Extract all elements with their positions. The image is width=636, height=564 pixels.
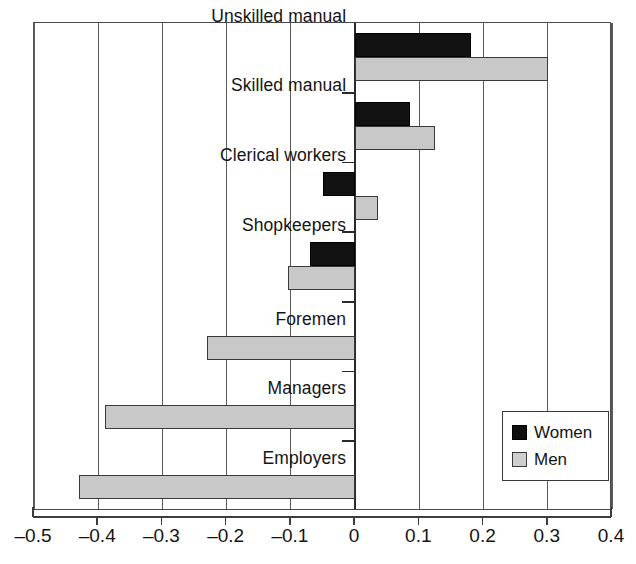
category-label-1: Skilled manual [231, 77, 346, 95]
x-tick-label-7: 0.2 [469, 526, 495, 545]
category-label-2: Clerical workers [220, 147, 346, 165]
x-tick-mark [225, 516, 227, 525]
x-tick-label-5: 0 [349, 526, 360, 545]
x-tick-mark [610, 507, 612, 517]
bar-men-3 [288, 266, 355, 290]
x-axis-line [33, 516, 611, 518]
category-label-6: Employers [263, 450, 347, 468]
bar-women-3 [310, 242, 355, 266]
legend-label-men: Men [534, 450, 567, 470]
x-tick-mark [289, 516, 291, 525]
gridline [98, 23, 99, 509]
gridline [33, 23, 34, 509]
bar-men-1 [355, 126, 435, 150]
bar-women-0 [355, 33, 471, 57]
horizontal-bar-chart: Unskilled manualSkilled manualClerical w… [0, 0, 636, 564]
x-tick-mark [418, 516, 420, 525]
category-label-5: Managers [268, 380, 347, 398]
legend-item-women: Women [512, 419, 608, 446]
x-tick-label-6: 0.1 [405, 526, 431, 545]
x-tick-label-0: –0.5 [15, 526, 52, 545]
category-label-0: Unskilled manual [211, 8, 346, 26]
gridline [419, 23, 420, 509]
bar-men-6 [79, 475, 355, 499]
x-tick-mark [546, 516, 548, 525]
category-axis-tick [342, 440, 355, 442]
gray-square-icon [512, 452, 527, 467]
bar-men-2 [355, 196, 377, 220]
gridline [226, 23, 227, 509]
bar-men-0 [355, 57, 548, 81]
x-tick-mark [161, 516, 163, 525]
x-tick-mark [96, 516, 98, 525]
x-tick-label-9: 0.4 [598, 526, 624, 545]
bar-men-4 [207, 336, 355, 360]
category-axis-tick [342, 301, 355, 303]
category-label-3: Shopkeepers [242, 217, 346, 235]
legend-item-men: Men [512, 446, 608, 473]
x-tick-label-4: –0.1 [271, 526, 308, 545]
bar-men-5 [105, 405, 355, 429]
chart-legend: Women Men [502, 411, 609, 481]
gridline [483, 23, 484, 509]
x-tick-label-1: –0.4 [79, 526, 116, 545]
x-tick-label-8: 0.3 [534, 526, 560, 545]
bar-women-2 [323, 172, 355, 196]
category-label-4: Foremen [275, 311, 346, 329]
bar-women-1 [355, 102, 410, 126]
legend-label-women: Women [534, 423, 592, 443]
x-tick-mark [32, 507, 34, 517]
gridline [611, 23, 612, 509]
x-tick-mark [353, 516, 355, 525]
gridline [162, 23, 163, 509]
category-axis-tick [342, 371, 355, 373]
x-tick-label-2: –0.3 [143, 526, 180, 545]
x-tick-label-3: –0.2 [207, 526, 244, 545]
x-tick-mark [482, 516, 484, 525]
black-square-icon [512, 425, 527, 440]
